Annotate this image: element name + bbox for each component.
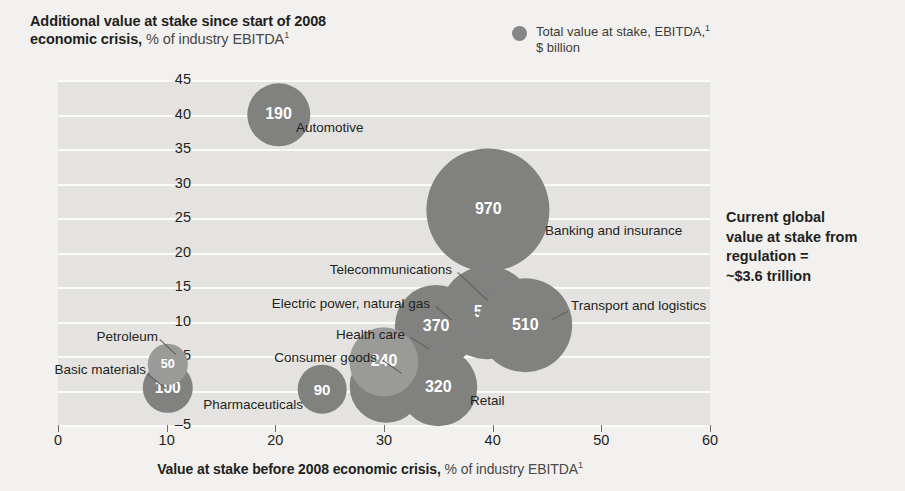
x-axis-caption-strong: Value at stake before 2008 economic cris… bbox=[157, 461, 441, 477]
bubble-label-retail: Retail bbox=[470, 393, 505, 409]
x-axis-tick-label: 40 bbox=[473, 432, 513, 448]
x-axis-tick bbox=[710, 425, 711, 432]
bubble-pharmaceuticals[interactable]: 90 bbox=[298, 365, 347, 414]
x-axis-tick bbox=[601, 425, 602, 432]
x-axis-caption-light: % of industry EBITDA bbox=[441, 461, 578, 477]
bubble-chart-figure: Additional value at stake since start of… bbox=[0, 0, 905, 491]
x-axis-tick bbox=[275, 425, 276, 432]
bubble-label-basic-materials: Basic materials bbox=[0, 362, 146, 378]
y-axis-tick-label: 20 bbox=[151, 244, 191, 260]
y-axis-tick-label: 15 bbox=[151, 278, 191, 294]
x-axis-caption-footnote-marker: 1 bbox=[578, 460, 583, 470]
x-axis-tick bbox=[58, 425, 59, 432]
bubble-label-pharmaceuticals: Pharmaceuticals bbox=[0, 397, 303, 413]
x-axis-tick-label: 20 bbox=[255, 432, 295, 448]
bubble-label-telecommunications: Telecommunications bbox=[0, 262, 452, 278]
bubble-label-automotive: Automotive bbox=[296, 120, 364, 136]
y-axis-tick-label: 35 bbox=[151, 140, 191, 156]
x-axis-tick-label: 50 bbox=[581, 432, 621, 448]
y-axis-tick-label: 40 bbox=[151, 106, 191, 122]
bubble-label-petroleum: Petroleum bbox=[0, 329, 158, 345]
chart-overlay: 454035302520151050–501020304050609705105… bbox=[0, 0, 905, 491]
bubble-banking-and-insurance[interactable]: 970 bbox=[427, 148, 550, 271]
x-axis-tick bbox=[384, 425, 385, 432]
bubble-label-transport-and-logistics: Transport and logistics bbox=[571, 298, 706, 314]
x-axis-caption: Value at stake before 2008 economic cris… bbox=[0, 461, 740, 477]
y-axis-tick-label: 25 bbox=[151, 209, 191, 225]
bubble-transport-and-logistics[interactable]: 510 bbox=[478, 278, 572, 372]
bubble-label-electric-power-natural-gas: Electric power, natural gas bbox=[0, 296, 430, 312]
y-axis-tick-label: 45 bbox=[151, 71, 191, 87]
y-axis-tick-label: 30 bbox=[151, 175, 191, 191]
x-axis-tick-label: 60 bbox=[690, 432, 730, 448]
x-axis-tick bbox=[167, 425, 168, 432]
bubble-label-banking-and-insurance: Banking and insurance bbox=[545, 223, 682, 239]
bubble-automotive[interactable]: 190 bbox=[247, 83, 310, 146]
x-axis-tick bbox=[493, 425, 494, 432]
x-axis-tick-label: 0 bbox=[38, 432, 78, 448]
y-axis-tick-label: –5 bbox=[151, 416, 191, 432]
x-axis-tick-label: 30 bbox=[364, 432, 404, 448]
x-axis-tick-label: 10 bbox=[147, 432, 187, 448]
